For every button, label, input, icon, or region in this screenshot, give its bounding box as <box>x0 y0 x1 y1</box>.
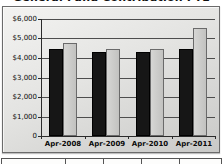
table-cell[interactable] <box>66 159 104 164</box>
y-axis-label: $5,000 <box>5 34 37 43</box>
x-axis-tick <box>215 136 216 139</box>
bar-chart[interactable]: $6,000$5,000$4,000$3,000$2,000$1,0000Apr… <box>2 6 220 153</box>
x-axis-label: Apr-2010 <box>128 140 172 149</box>
chart-title-clipped: General Fund Contribution FTE <box>0 0 223 5</box>
bar-light-apr-2008 <box>63 43 77 136</box>
y-axis-label: $1,000 <box>5 113 37 122</box>
table-cell[interactable] <box>2 159 66 164</box>
gridline <box>41 38 215 39</box>
bar-dark-apr-2011 <box>179 49 193 136</box>
y-axis-label: 0 <box>5 132 37 141</box>
bar-dark-apr-2008 <box>49 49 63 136</box>
y-axis-label: $2,000 <box>5 93 37 102</box>
y-axis-label: $4,000 <box>5 54 37 63</box>
x-axis-label: Apr-2009 <box>85 140 129 149</box>
x-axis-label: Apr-2011 <box>172 140 216 149</box>
data-table-clipped <box>1 158 222 164</box>
y-axis-label: $6,000 <box>5 15 37 24</box>
bar-light-apr-2011 <box>193 28 207 136</box>
bar-dark-apr-2010 <box>136 52 150 136</box>
table-cell[interactable] <box>104 159 142 164</box>
gridline <box>41 19 215 20</box>
bar-light-apr-2010 <box>150 49 164 136</box>
bar-light-apr-2009 <box>106 49 120 136</box>
y-axis-label: $3,000 <box>5 74 37 83</box>
table-cell[interactable] <box>142 159 180 164</box>
chart-screenshot-root: General Fund Contribution FTE $6,000$5,0… <box>0 0 223 164</box>
chart-title-text: General Fund Contribution FTE <box>0 0 223 4</box>
x-axis-line <box>41 136 215 137</box>
table-cell[interactable] <box>180 159 221 164</box>
bar-dark-apr-2009 <box>92 52 106 136</box>
y-axis-line <box>41 19 42 136</box>
x-axis-label: Apr-2008 <box>41 140 85 149</box>
